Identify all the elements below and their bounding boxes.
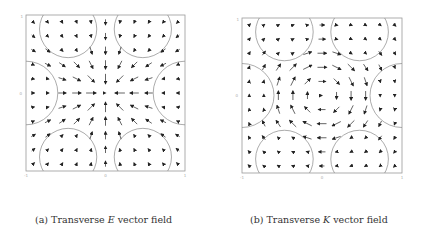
vector-arrow	[32, 148, 35, 150]
vector-arrow	[305, 79, 311, 85]
vector-arrow	[148, 163, 149, 165]
vector-arrow	[47, 163, 48, 165]
x-tick-label: 0	[321, 175, 324, 180]
vector-arrow	[118, 61, 122, 69]
vector-arrow	[350, 166, 352, 167]
vector-arrow	[148, 21, 149, 23]
vector-arrow	[394, 123, 395, 125]
vector-arrow	[47, 107, 49, 108]
vector-arrow	[88, 104, 95, 111]
vector-arrow	[74, 62, 80, 68]
vector-arrow	[365, 38, 367, 39]
vector-arrow	[59, 63, 65, 67]
vector-arrow	[148, 149, 149, 151]
vector-arrow	[263, 165, 265, 166]
plot-canvas-a: -10101	[26, 15, 185, 171]
vector-arrow	[248, 52, 250, 55]
vector-arrow	[146, 63, 152, 67]
vector-arrow	[91, 149, 92, 151]
vector-arrow	[394, 38, 396, 40]
plot-canvas-b: -10101	[242, 18, 402, 173]
y-tick-label: 0	[19, 91, 22, 96]
vector-arrow	[292, 166, 294, 167]
caption-b-prefix: (b) Transverse	[250, 214, 323, 225]
vector-arrow	[291, 105, 295, 114]
vector-arrow	[45, 63, 50, 66]
vector-arrow	[176, 134, 180, 136]
vector-arrow	[177, 121, 179, 122]
vector-arrow	[119, 47, 121, 54]
vector-arrow	[163, 163, 164, 165]
vector-arrow	[132, 62, 138, 68]
vector-arrow	[303, 65, 312, 69]
vector-arrow	[176, 148, 179, 150]
vector-arrow	[134, 149, 135, 151]
vector-arrow	[379, 24, 381, 25]
vector-arrow	[89, 118, 93, 126]
vector-arrow	[47, 79, 49, 80]
vector-arrow	[32, 64, 34, 65]
vector-arrow	[59, 119, 65, 123]
vector-arrow	[349, 105, 353, 114]
vector-arrow	[291, 77, 295, 86]
vector-arrow	[32, 121, 34, 122]
vector-arrow	[148, 135, 150, 137]
plot-frame	[242, 18, 402, 173]
vector-arrow	[380, 80, 381, 82]
vector-arrow	[162, 79, 164, 80]
vector-arrow	[76, 149, 77, 151]
vector-arrow	[62, 163, 63, 165]
vector-arrow	[134, 163, 135, 165]
vector-arrow	[73, 105, 81, 109]
vector-arrow	[363, 120, 367, 126]
vector-arrow	[131, 105, 139, 109]
vector-arrow	[365, 151, 367, 152]
vector-arrow	[335, 39, 337, 40]
vector-arrow	[177, 64, 179, 65]
vector-arrow	[348, 120, 355, 127]
vector-arrow	[277, 165, 279, 166]
vector-arrow	[276, 64, 280, 70]
vector-arrow	[248, 151, 250, 153]
region-circle	[40, 128, 97, 185]
vector-arrow	[348, 64, 355, 71]
vector-arrow	[32, 35, 35, 37]
vector-arrow	[249, 66, 250, 68]
vector-arrow	[76, 21, 77, 23]
vector-arrow	[134, 21, 135, 23]
caption-a-suffix: vector field	[115, 214, 173, 225]
vector-arrow	[394, 165, 396, 167]
vector-arrow	[161, 120, 166, 123]
vector-arrow	[31, 49, 35, 51]
vector-arrow	[117, 75, 124, 82]
vector-arrow	[365, 137, 367, 139]
vector-arrow	[176, 49, 180, 51]
vector-arrow	[61, 35, 62, 37]
vector-arrow	[89, 61, 93, 69]
vector-arrow	[277, 38, 279, 39]
vector-arrow	[379, 121, 382, 126]
vector-arrow	[332, 65, 341, 69]
vector-arrow	[394, 151, 396, 153]
vector-arrow	[73, 77, 81, 81]
vector-arrow	[292, 53, 294, 54]
vector-arrow	[120, 149, 121, 151]
vector-arrow	[132, 119, 138, 125]
vector-arrow	[350, 137, 352, 138]
vector-arrow	[163, 35, 165, 37]
vector-arrow	[262, 121, 265, 126]
vector-arrow	[249, 123, 250, 125]
vector-arrow	[162, 107, 164, 108]
vector-arrow	[118, 118, 122, 126]
vector-arrow	[76, 163, 77, 165]
vector-arrow	[292, 151, 294, 152]
region-circle	[114, 128, 171, 185]
vector-arrow	[262, 65, 265, 70]
x-tick-label: -1	[24, 173, 28, 178]
vector-arrow	[263, 38, 265, 40]
vector-arrow	[350, 53, 352, 54]
caption-a: (a) Transverse E vector field	[35, 214, 172, 225]
vector-arrow	[277, 24, 279, 25]
region-circle	[40, 0, 97, 57]
vector-arrow	[47, 35, 49, 37]
